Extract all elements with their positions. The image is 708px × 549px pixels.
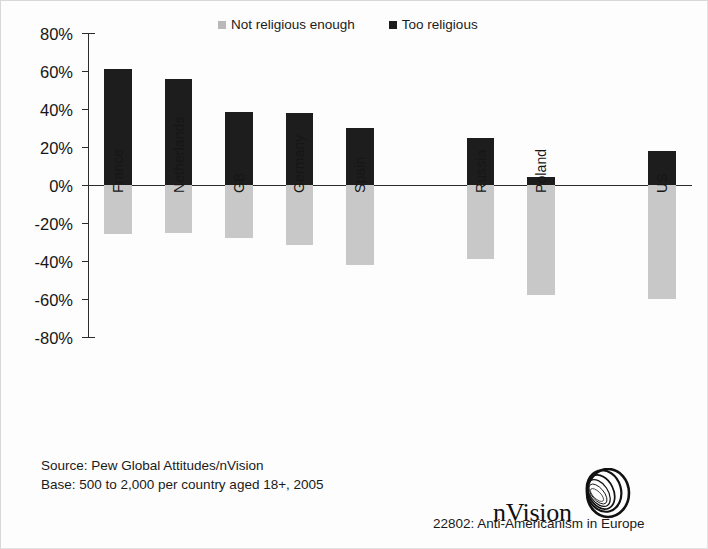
bar-negative	[286, 185, 314, 245]
x-axis-label: US	[654, 173, 670, 193]
y-tick: 0%	[82, 185, 88, 186]
report-title: 22802: Anti-Americanism in Europe	[433, 516, 645, 531]
bar-slot	[406, 33, 434, 337]
y-tick-label: 40%	[40, 101, 73, 120]
y-tick: 60%	[82, 71, 88, 72]
legend-entry-not-religious-enough: Not religious enough	[218, 17, 355, 32]
legend-entry-too-religious: Too religious	[389, 17, 478, 32]
square-swatch-icon	[218, 21, 226, 29]
y-tick: -40%	[82, 261, 88, 262]
x-axis-label: Poland	[533, 149, 549, 193]
y-tick: 20%	[82, 147, 88, 148]
y-tick-label: 20%	[40, 139, 73, 158]
x-axis-label: Netherlands	[171, 116, 187, 193]
y-tick: -20%	[82, 223, 88, 224]
x-axis-label: France	[110, 149, 126, 193]
source-line: Source: Pew Global Attitudes/nVision	[41, 456, 324, 475]
x-axis-label: Russia	[473, 150, 489, 193]
bar-negative	[467, 185, 495, 259]
axis-cap	[88, 33, 95, 34]
bar-negative	[527, 185, 555, 295]
y-tick-label: 60%	[40, 63, 73, 82]
y-tick: 40%	[82, 109, 88, 110]
chart-page: Not religious enough Too religious 80%60…	[0, 0, 708, 549]
y-tick-label: 0%	[49, 177, 73, 196]
y-tick: -60%	[82, 299, 88, 300]
base-line: Base: 500 to 2,000 per country aged 18+,…	[41, 475, 324, 494]
bar-slot	[588, 33, 616, 337]
bar-negative	[346, 185, 374, 265]
y-tick-label: -60%	[34, 291, 73, 310]
y-tick-label: -80%	[34, 329, 73, 348]
x-axis-label: Germany	[291, 135, 307, 193]
y-tick-label: -40%	[34, 253, 73, 272]
x-axis-label: GB	[231, 173, 247, 193]
y-tick-label: 80%	[40, 25, 73, 44]
square-swatch-icon	[389, 21, 397, 29]
x-axis-label: Spain	[352, 157, 368, 193]
axis-cap	[88, 337, 95, 338]
legend-label: Not religious enough	[231, 17, 355, 32]
bar-negative	[648, 185, 676, 299]
source-note: Source: Pew Global Attitudes/nVision Bas…	[41, 456, 324, 494]
y-tick-label: -20%	[34, 215, 73, 234]
chart-legend: Not religious enough Too religious	[218, 17, 478, 32]
legend-label: Too religious	[402, 17, 478, 32]
plot-area: 80%60%40%20%0%-20%-40%-60%-80% FranceNet…	[88, 33, 692, 337]
